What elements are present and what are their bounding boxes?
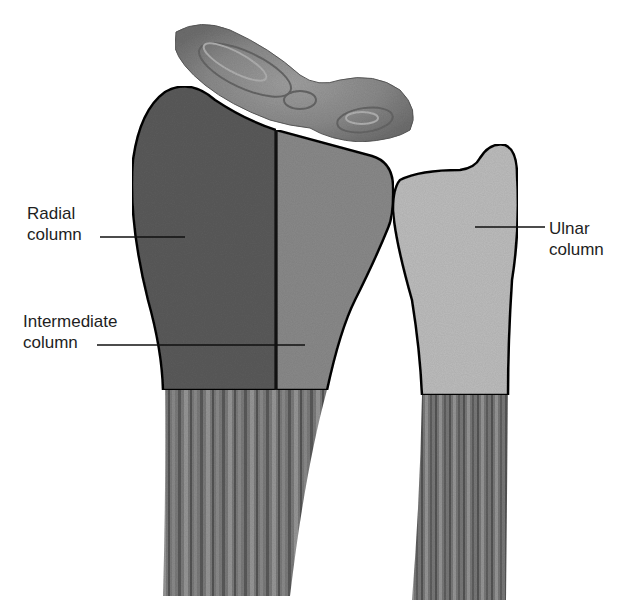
intermediate-column <box>276 130 393 390</box>
ulnar-column <box>393 145 518 395</box>
ulnar-label-line2: column <box>549 239 604 260</box>
wrist-column-diagram <box>0 0 643 614</box>
ulnar-column-label: Ulnar column <box>549 218 604 260</box>
radial-label-line1: Radial <box>27 203 82 224</box>
intermediate-label-line2: column <box>23 332 118 353</box>
ulna-shaft <box>412 395 508 600</box>
intermediate-label-line1: Intermediate <box>23 311 118 332</box>
radial-column-label: Radial column <box>27 203 82 245</box>
ulnar-label-line1: Ulnar <box>549 218 604 239</box>
radial-label-line2: column <box>27 224 82 245</box>
intermediate-column-label: Intermediate column <box>23 311 118 353</box>
radius-shaft <box>163 390 327 596</box>
